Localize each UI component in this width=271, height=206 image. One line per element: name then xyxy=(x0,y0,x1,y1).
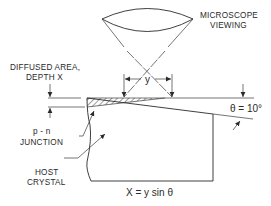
diffused-label-2: DEPTH X xyxy=(26,73,63,82)
viewing-rays xyxy=(102,19,193,97)
host-label-1: HOST xyxy=(35,168,59,177)
microscope-label-2: VIEWING xyxy=(210,21,247,30)
dimension-y: y xyxy=(124,74,172,97)
diffused-label-1: DIFFUSED AREA, xyxy=(10,63,80,72)
angle-arrow-bottom xyxy=(233,121,240,130)
microscope-label-1: MICROSCOPE xyxy=(200,11,258,20)
host-label-2: CRYSTAL xyxy=(27,178,66,187)
pn-label-1: p - n xyxy=(33,127,51,136)
formula-label: X = y sin θ xyxy=(126,187,173,198)
dimension-y-label: y xyxy=(145,74,150,85)
microscope-lens-icon xyxy=(102,9,193,32)
bevel-extension-line xyxy=(213,114,253,119)
host-crystal xyxy=(87,98,213,181)
angle-label: θ = 10° xyxy=(230,103,262,114)
pn-leader xyxy=(79,111,94,136)
pn-label-2: JUNCTION xyxy=(20,138,63,147)
host-leader xyxy=(64,134,105,158)
angle-lap-diagram: y MICROSCOPE VIEWING DIFFUSED AREA, DEPT… xyxy=(0,0,271,206)
